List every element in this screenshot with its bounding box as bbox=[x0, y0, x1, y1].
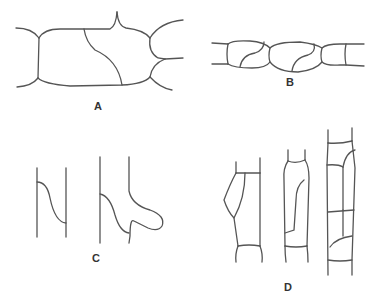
panel-label-d: D bbox=[284, 281, 292, 293]
panel-d-drawing bbox=[224, 128, 355, 275]
figure-drawing bbox=[0, 0, 374, 305]
panel-label-b: B bbox=[286, 76, 294, 88]
panel-label-a: A bbox=[94, 100, 102, 112]
panel-c-drawing bbox=[37, 157, 163, 243]
panel-b-drawing bbox=[212, 41, 364, 72]
panel-label-c: C bbox=[92, 252, 100, 264]
panel-a-drawing bbox=[16, 12, 183, 90]
